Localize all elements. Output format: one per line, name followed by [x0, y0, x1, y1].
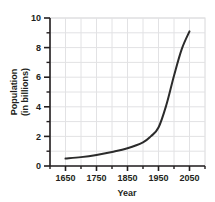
y-axis-title-line1: Population	[9, 69, 19, 116]
x-axis-tick-label: 1750	[86, 173, 106, 183]
x-axis-tick-labels: 16501750185019502050	[55, 173, 199, 183]
population-growth-chart: 0246810 16501750185019502050 Year Popula…	[0, 0, 215, 202]
x-axis-tick-label: 1850	[117, 173, 137, 183]
x-axis-tick-label: 2050	[179, 173, 199, 183]
y-axis-tick-label: 8	[36, 43, 41, 53]
y-axis-tick-label: 0	[36, 161, 41, 171]
y-axis-tick-label: 4	[36, 102, 41, 112]
y-axis-tick-labels: 0246810	[31, 13, 41, 171]
x-axis-tick-label: 1650	[55, 173, 75, 183]
y-axis-ticks	[44, 18, 50, 166]
y-axis-tick-label: 10	[31, 13, 41, 23]
y-axis-title: Population (in billions)	[9, 68, 30, 116]
x-axis-tick-label: 1950	[148, 173, 168, 183]
y-axis-title-line2: (in billions)	[20, 68, 30, 116]
x-axis-title: Year	[117, 188, 137, 198]
chart-canvas: 0246810 16501750185019502050 Year Popula…	[0, 0, 215, 202]
y-axis-tick-label: 6	[36, 72, 41, 82]
y-axis-tick-label: 2	[36, 132, 41, 142]
